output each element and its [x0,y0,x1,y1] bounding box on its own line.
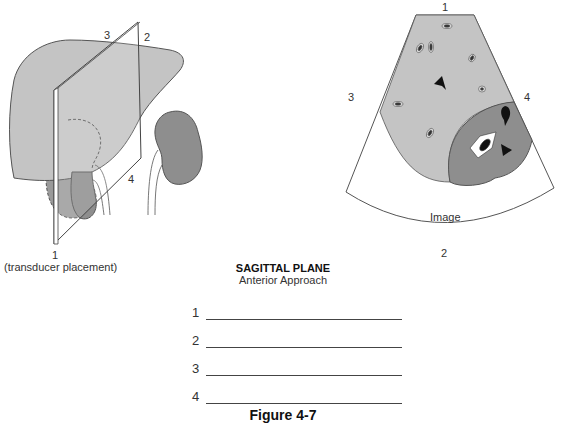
ultrasound-sector-figure: 1 3 4 Image 2 [330,0,566,260]
answer-row-3[interactable]: 3 [192,362,402,378]
answer-number: 2 [192,333,199,348]
answer-number: 1 [192,305,199,320]
left-kidney [155,111,202,184]
answer-line[interactable] [206,347,402,348]
left-anatomy-figure: 3 2 4 1 (transducer placement) [0,0,210,270]
left-label-2: 2 [144,32,150,43]
plane-edge [54,88,58,244]
answer-line[interactable] [206,375,402,376]
figure-label: Figure 4-7 [0,407,566,423]
image-label: Image [430,212,461,223]
answer-line[interactable] [206,319,402,320]
left-label-1: 1 [52,250,58,261]
left-label-4: 4 [128,174,134,185]
answer-row-4[interactable]: 4 [192,390,402,406]
answer-line[interactable] [206,403,402,404]
answer-number: 4 [192,389,199,404]
answer-number: 3 [192,361,199,376]
plane-subtitle: Anterior Approach [0,274,566,286]
right-label-3: 3 [348,92,354,103]
left-label-3: 3 [104,30,110,41]
right-label-4: 4 [524,92,530,103]
plane-title: SAGITTAL PLANE [0,262,566,274]
answer-row-1[interactable]: 1 [192,306,402,322]
answer-row-2[interactable]: 2 [192,334,402,350]
right-label-1: 1 [442,2,448,13]
right-label-2: 2 [441,248,447,259]
left-ureter [148,150,162,215]
